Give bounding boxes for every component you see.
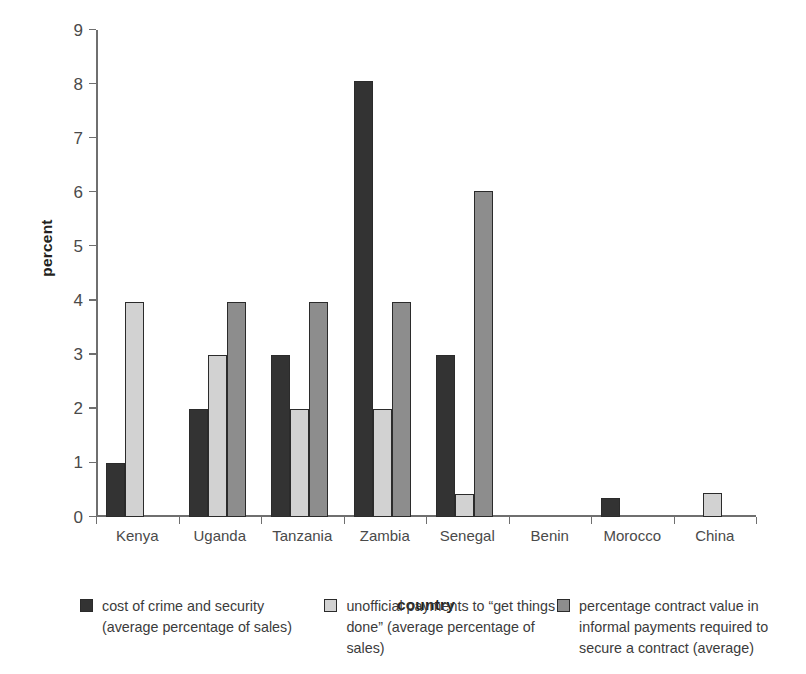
bar-group <box>96 30 179 517</box>
legend-swatch-series2-icon <box>324 599 337 612</box>
bar-group <box>344 30 427 517</box>
y-axis-tick-label: 6 <box>74 183 83 203</box>
x-axis-category-label: Tanzania <box>272 527 332 544</box>
x-axis-tick <box>179 517 180 524</box>
y-axis-tick <box>89 516 96 517</box>
legend-label-series1-line1: cost of crime and security <box>102 598 264 614</box>
y-axis-tick-label: 8 <box>74 75 83 95</box>
y-axis-title: percent <box>38 219 56 276</box>
bar <box>392 302 411 517</box>
bar-group <box>509 30 592 517</box>
x-axis-category-label: China <box>695 527 734 544</box>
plot-area: 0123456789 KenyaUgandaTanzaniaZambiaSene… <box>96 30 756 517</box>
bar <box>474 191 493 517</box>
legend-swatch-series1-icon <box>80 599 93 612</box>
bar <box>271 355 290 517</box>
legend-label-series1: cost of crime and security (average perc… <box>102 596 292 638</box>
y-axis-tick-label: 7 <box>74 129 83 149</box>
bar <box>208 355 227 517</box>
legend-label-series2: unofficial payments to “get things done”… <box>346 596 557 659</box>
bar-group <box>674 30 757 517</box>
x-axis-tick <box>591 517 592 524</box>
x-axis-tick <box>344 517 345 524</box>
y-axis-tick <box>89 245 96 246</box>
bar-chart: 0123456789 KenyaUgandaTanzaniaZambiaSene… <box>0 0 806 674</box>
bar <box>106 463 125 517</box>
y-axis-tick-label: 5 <box>74 237 83 257</box>
y-axis-tick <box>89 83 96 84</box>
x-axis-tick <box>756 517 757 524</box>
legend-item-unofficial-payments: unofficial payments to “get things done”… <box>324 596 557 659</box>
y-axis-tick-label: 2 <box>74 399 83 419</box>
bar <box>373 409 392 517</box>
chart-legend: cost of crime and security (average perc… <box>80 596 780 659</box>
legend-label-series3-line3: secure a contract (average) <box>579 640 754 656</box>
bar <box>189 409 208 517</box>
y-axis-tick <box>89 191 96 192</box>
bar <box>436 355 455 517</box>
y-axis-tick <box>89 299 96 300</box>
legend-item-cost-of-crime: cost of crime and security (average perc… <box>80 596 324 659</box>
bar <box>703 493 722 517</box>
bar <box>125 302 144 517</box>
x-axis-tick <box>426 517 427 524</box>
x-axis-tick <box>96 517 97 524</box>
x-axis-tick <box>261 517 262 524</box>
y-axis-tick <box>89 29 96 30</box>
x-axis-tick <box>509 517 510 524</box>
bar <box>290 409 309 517</box>
legend-item-contract-value: percentage contract value in informal pa… <box>557 596 780 659</box>
bar <box>309 302 328 517</box>
x-axis-tick <box>674 517 675 524</box>
bar-group <box>179 30 262 517</box>
y-axis-tick <box>89 137 96 138</box>
legend-label-series3: percentage contract value in informal pa… <box>579 596 768 659</box>
y-axis-tick-label: 1 <box>74 453 83 473</box>
legend-label-series1-line2: (average percentage of sales) <box>102 619 292 635</box>
bar-group <box>591 30 674 517</box>
bar-group <box>261 30 344 517</box>
x-axis-category-label: Zambia <box>360 527 410 544</box>
bar <box>455 494 474 517</box>
y-axis-tick-label: 0 <box>74 508 83 528</box>
legend-label-series2-line1: unofficial payments to “get things <box>346 598 555 614</box>
bar-group <box>426 30 509 517</box>
x-axis-category-label: Kenya <box>116 527 159 544</box>
y-axis-tick <box>89 353 96 354</box>
y-axis-tick-label: 3 <box>74 345 83 365</box>
y-axis-tick <box>89 462 96 463</box>
bar <box>601 498 620 517</box>
legend-label-series3-line2: informal payments required to <box>579 619 768 635</box>
x-axis-category-label: Senegal <box>440 527 495 544</box>
bar-groups <box>96 30 756 517</box>
x-axis-category-label: Benin <box>531 527 569 544</box>
legend-swatch-series3-icon <box>557 599 570 612</box>
bar <box>354 81 373 517</box>
y-axis-tick <box>89 407 96 408</box>
x-axis-category-label: Uganda <box>193 527 246 544</box>
y-axis-tick-label: 4 <box>74 291 83 311</box>
legend-label-series3-line1: percentage contract value in <box>579 598 759 614</box>
bar <box>227 302 246 517</box>
y-axis-tick-label: 9 <box>74 21 83 41</box>
x-axis-category-label: Morocco <box>603 527 661 544</box>
legend-label-series2-line2: done” (average percentage of sales) <box>346 619 534 656</box>
